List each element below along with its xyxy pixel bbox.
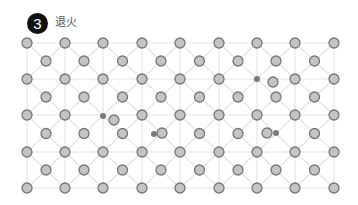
atom [329,74,339,84]
atom [233,165,243,175]
atom [22,183,32,193]
atom [175,74,185,84]
atom [329,38,339,48]
atom [252,183,262,193]
atom [290,147,300,157]
atom [118,129,128,139]
displaced-atom [268,77,278,87]
atom [118,92,128,102]
atom [41,56,51,66]
atom [137,74,147,84]
atom [22,147,32,157]
atom [233,129,243,139]
atom [98,183,108,193]
atom [271,92,281,102]
atom [329,147,339,157]
atom [22,74,32,84]
atom [175,110,185,120]
atom [290,74,300,84]
atom [60,183,70,193]
atom [79,129,89,139]
atom [310,129,320,139]
atom [60,74,70,84]
atom [252,147,262,157]
atom [118,56,128,66]
atom [137,38,147,48]
atom [175,183,185,193]
atom [156,165,166,175]
atom [41,92,51,102]
defect-dot [254,76,260,82]
atom [252,38,262,48]
atom [60,38,70,48]
atom [233,56,243,66]
atom [214,183,224,193]
atom [22,110,32,120]
atom [98,147,108,157]
displaced-atom [157,128,167,138]
atom [329,183,339,193]
displaced-atom [109,115,119,125]
atom [214,74,224,84]
atom [41,129,51,139]
atom [118,165,128,175]
atom [98,74,108,84]
atom [60,147,70,157]
atom [175,38,185,48]
atom [137,147,147,157]
atom [195,129,205,139]
atom [137,110,147,120]
atom [137,183,147,193]
atom [156,56,166,66]
atom [79,165,89,175]
atom [214,110,224,120]
atom [22,38,32,48]
atom [233,92,243,102]
atom [195,92,205,102]
atom [195,165,205,175]
atom [310,92,320,102]
atom [175,147,185,157]
atom [290,110,300,120]
defect-dot [100,113,106,119]
atom [79,92,89,102]
atom [60,110,70,120]
defect-dot [273,130,279,136]
crystal-lattice-diagram [0,0,358,205]
atom [98,38,108,48]
atom [290,183,300,193]
atom [329,110,339,120]
atom [290,38,300,48]
atom [214,147,224,157]
atom [214,38,224,48]
atom [271,165,281,175]
atom [310,56,320,66]
atom [252,110,262,120]
atom [195,56,205,66]
atom [271,56,281,66]
atom [310,165,320,175]
atom [156,92,166,102]
displaced-atom [262,128,272,138]
atom [41,165,51,175]
atom [79,56,89,66]
defect-dot [151,131,157,137]
